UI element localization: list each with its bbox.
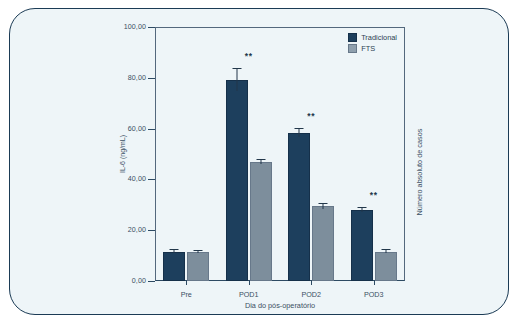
y-axis-tick [148,230,155,231]
x-axis-tick-label: POD1 [239,290,259,299]
legend-item-fts: FTS [348,44,397,53]
legend-item-traditional: Tradicional [348,33,397,42]
legend-swatch-traditional [348,33,357,42]
y-axis-tick [148,281,155,282]
y-axis-tick-label: 100,00 [124,23,146,31]
error-bar-cap [295,128,304,129]
legend-swatch-fts [348,44,357,53]
significance-marker: ** [370,190,378,200]
y-axis-title: IL-6 (ng/mL) [119,135,126,173]
bar-group: **POD2 [280,27,343,281]
error-bar [198,251,199,254]
bar-group: **POD3 [343,27,406,281]
bar-group: **POD1 [218,27,281,281]
x-axis-tick [186,281,187,285]
x-axis-tick-label: POD2 [301,290,321,299]
x-axis-tick-label: Pre [181,290,192,299]
error-bar-cap [170,249,179,250]
y-axis-tick [148,78,155,79]
y-axis-tick [148,129,155,130]
legend-label-fts: FTS [361,44,375,53]
bar-fts[interactable] [375,252,397,281]
significance-marker: ** [245,51,253,61]
y-axis-tick [148,179,155,180]
error-bar-cap [256,159,265,160]
x-axis-tick-label: POD3 [364,290,384,299]
legend-label-traditional: Tradicional [361,33,397,42]
error-bar-cap [319,203,328,204]
y-axis-tick [148,27,155,28]
y-axis-tick-label: 20,00 [128,226,146,234]
x-axis-tick [249,281,250,285]
right-axis-title: Número absoluto de casos [415,129,424,216]
error-bar [174,250,175,253]
x-axis-title: Dia do pós-operatório [245,301,315,310]
x-axis-tick [311,281,312,285]
bar-fts[interactable] [250,162,272,281]
bar-traditional[interactable] [163,252,185,281]
error-bar-cap [194,250,203,251]
error-bar [236,69,237,91]
y-axis-tick-label: 80,00 [128,74,146,82]
error-bar [361,208,362,212]
error-bar [299,129,300,137]
error-bar [260,160,261,164]
bar-traditional[interactable] [226,80,248,281]
bar-group: Pre [155,27,218,281]
bar-fts[interactable] [312,206,334,281]
bar-traditional[interactable] [288,133,310,281]
y-axis-tick-label: 40,00 [128,175,146,183]
bar-fts[interactable] [187,252,209,281]
plot-area: 0,0020,0040,0060,0080,00100,00 Pre**POD1… [155,27,405,281]
y-axis-tick-label: 60,00 [128,125,146,133]
error-bar [323,204,324,209]
chart-legend: Tradicional FTS [348,33,397,53]
y-axis-tick-label: 0,00 [132,277,146,285]
error-bar-cap [232,68,241,69]
figure: IL-6 (ng/mL) Número absoluto de casos Di… [0,0,530,329]
error-bar-cap [357,207,366,208]
error-bar-cap [381,249,390,250]
bar-traditional[interactable] [351,210,373,281]
x-axis-tick [374,281,375,285]
significance-marker: ** [307,111,315,121]
error-bar [385,250,386,253]
